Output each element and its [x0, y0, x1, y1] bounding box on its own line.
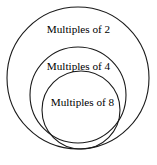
label-multiples-of-4: Multiples of 4: [0, 61, 157, 72]
circle-multiples-of-8: [42, 71, 120, 149]
nested-set-diagram: Multiples of 2 Multiples of 4 Multiples …: [0, 0, 157, 165]
label-multiples-of-8: Multiples of 8: [4, 97, 157, 108]
label-multiples-of-2: Multiples of 2: [0, 24, 157, 35]
